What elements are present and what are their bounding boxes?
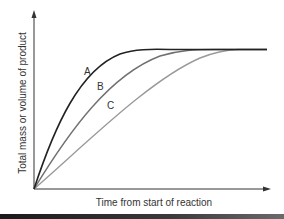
curve-a bbox=[34, 49, 267, 189]
curve-c-label: C bbox=[107, 100, 114, 111]
y-axis bbox=[32, 10, 37, 189]
x-axis bbox=[34, 187, 271, 192]
y-axis-title: Total mass or volume of product bbox=[17, 32, 28, 174]
reaction-product-chart: A B C Time from start of reaction Total … bbox=[0, 0, 284, 219]
curve-c bbox=[34, 50, 267, 190]
y-axis-arrow-icon bbox=[32, 10, 37, 18]
x-axis-arrow-icon bbox=[263, 187, 271, 192]
bottom-divider-bar bbox=[0, 214, 284, 219]
curve-b bbox=[34, 50, 267, 190]
curve-b-label: B bbox=[97, 81, 104, 92]
curve-a-label: A bbox=[84, 66, 91, 77]
x-axis-title: Time from start of reaction bbox=[96, 197, 212, 208]
